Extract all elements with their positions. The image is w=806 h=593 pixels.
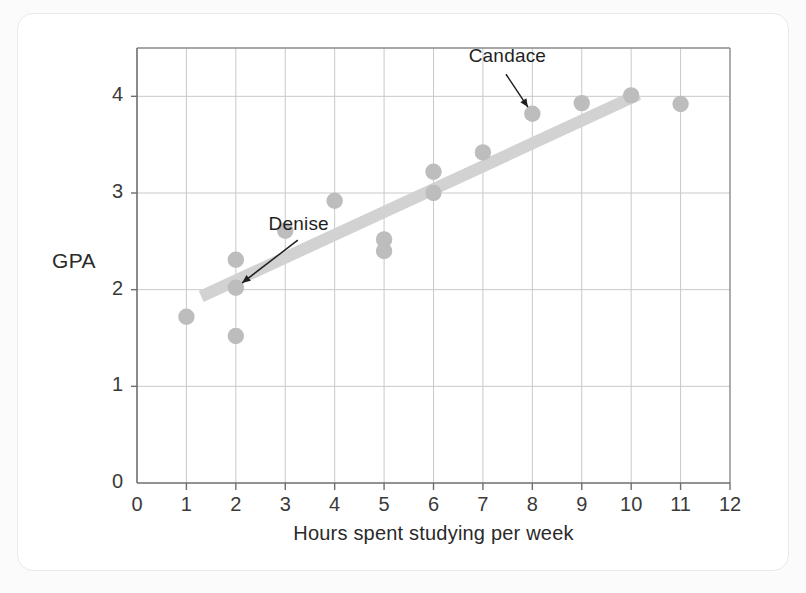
data-point[interactable] [475, 144, 491, 160]
y-tick-label: 3 [89, 180, 123, 203]
x-tick-label: 2 [216, 493, 256, 516]
trend-line [201, 94, 638, 296]
x-tick-label: 10 [611, 493, 651, 516]
annotation-arrowhead [520, 98, 528, 107]
y-axis-title: GPA [52, 249, 96, 273]
annotation-label-candace: Candace [469, 45, 546, 67]
data-point[interactable] [326, 193, 342, 209]
x-tick-label: 0 [117, 493, 157, 516]
y-tick-label: 0 [89, 470, 123, 493]
x-axis-title: Hours spent studying per week [137, 522, 730, 545]
y-tick-label: 4 [89, 83, 123, 106]
data-point[interactable] [228, 252, 244, 268]
data-point[interactable] [524, 106, 540, 122]
data-point[interactable] [425, 185, 441, 201]
x-tick-label: 12 [710, 493, 750, 516]
screenshot-root: GPA Hours spent studying per week 01234 … [0, 0, 806, 593]
y-tick-label: 2 [89, 277, 123, 300]
x-tick-label: 1 [166, 493, 206, 516]
x-tick-label: 3 [265, 493, 305, 516]
x-tick-label: 5 [364, 493, 404, 516]
x-tick-label: 6 [414, 493, 454, 516]
x-tick-label: 7 [463, 493, 503, 516]
data-point[interactable] [228, 328, 244, 344]
data-point[interactable] [425, 164, 441, 180]
data-point[interactable] [228, 280, 244, 296]
data-point[interactable] [574, 95, 590, 111]
data-point[interactable] [376, 243, 392, 259]
data-point[interactable] [672, 96, 688, 112]
data-point[interactable] [178, 309, 194, 325]
x-tick-label: 4 [315, 493, 355, 516]
data-point[interactable] [623, 87, 639, 103]
x-tick-label: 11 [661, 493, 701, 516]
y-tick-label: 1 [89, 373, 123, 396]
x-tick-label: 9 [562, 493, 602, 516]
annotation-label-denise: Denise [269, 213, 329, 235]
x-tick-label: 8 [512, 493, 552, 516]
